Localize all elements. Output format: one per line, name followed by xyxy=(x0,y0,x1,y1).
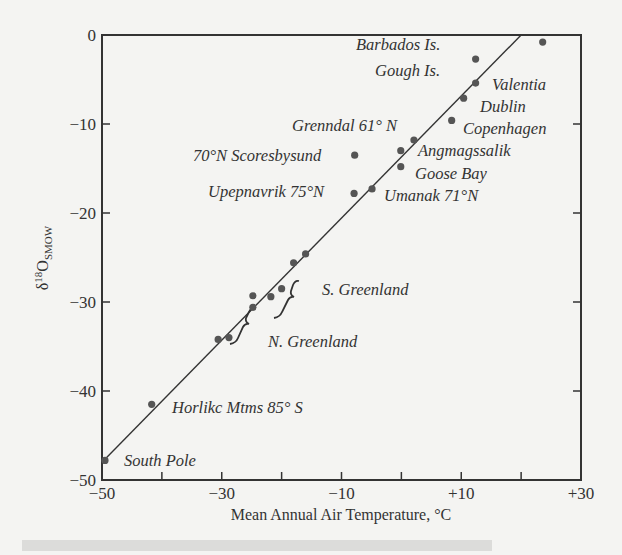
y-tick-label: −50 xyxy=(69,471,96,490)
point-label: South Pole xyxy=(124,451,196,470)
data-point xyxy=(472,55,479,62)
fit-line xyxy=(102,35,521,462)
data-point xyxy=(539,39,546,46)
brace-s-greenland xyxy=(274,281,299,318)
y-tick-label: −10 xyxy=(69,115,96,134)
x-tick-label: +10 xyxy=(448,484,475,503)
data-point xyxy=(225,334,232,341)
x-tick-label: +30 xyxy=(568,484,595,503)
page-bottom-bar xyxy=(22,540,492,551)
y-tick-label: −30 xyxy=(69,293,96,312)
x-tick-label: −10 xyxy=(328,484,355,503)
data-point xyxy=(448,117,455,124)
data-point xyxy=(101,457,108,464)
data-point xyxy=(460,95,467,102)
y-tick-label: 0 xyxy=(88,26,97,45)
data-point xyxy=(148,401,155,408)
point-label: Goose Bay xyxy=(415,164,488,183)
point-annotations: Barbados Is.Gough Is.ValentiaDublinGrenn… xyxy=(124,35,546,470)
data-point xyxy=(472,79,479,86)
data-point xyxy=(267,293,274,300)
regression-line xyxy=(102,35,521,462)
data-point xyxy=(249,304,256,311)
point-label: Gough Is. xyxy=(375,61,440,80)
x-axis-title: Mean Annual Air Temperature, °C xyxy=(231,506,451,524)
data-point xyxy=(215,336,222,343)
point-label: Angmagssalik xyxy=(417,141,511,160)
point-label: Barbados Is. xyxy=(356,35,440,54)
point-label: Umanak 71°N xyxy=(384,186,479,205)
point-label: S. Greenland xyxy=(322,280,409,299)
data-point xyxy=(278,285,285,292)
point-label: Upepnavrik 75°N xyxy=(208,182,325,201)
point-label: 70°N Scoresbysund xyxy=(193,146,322,165)
data-point xyxy=(249,292,256,299)
data-point xyxy=(397,147,404,154)
data-point xyxy=(410,136,417,143)
point-label: N. Greenland xyxy=(267,332,358,351)
chart-svg: −50−30−10+10+300−10−20−30−40−50 Barbados… xyxy=(0,0,622,555)
y-axis-title: δ18OSMOW xyxy=(32,225,54,290)
svg-text:δ18OSMOW: δ18OSMOW xyxy=(32,225,54,290)
point-label: Copenhagen xyxy=(463,119,546,138)
data-point xyxy=(351,152,358,159)
point-label: Dublin xyxy=(479,97,526,116)
data-point xyxy=(350,190,357,197)
brace-n-greenland xyxy=(230,308,255,344)
point-label: Valentia xyxy=(492,75,546,94)
data-point xyxy=(290,259,297,266)
point-label: Horlikc Mtms 85° S xyxy=(171,398,303,417)
data-point xyxy=(397,163,404,170)
data-point xyxy=(302,250,309,257)
point-label: Grenndal 61° N xyxy=(292,116,398,135)
x-tick-label: −30 xyxy=(208,484,235,503)
y-tick-label: −20 xyxy=(69,204,96,223)
y-tick-label: −40 xyxy=(69,382,96,401)
data-point xyxy=(368,185,375,192)
